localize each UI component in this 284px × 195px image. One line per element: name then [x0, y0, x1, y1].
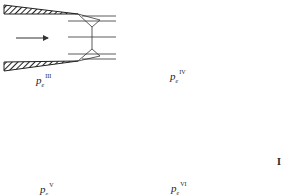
label-pe-v: peV [40, 183, 54, 195]
label-pe-iv: peIV [170, 70, 186, 84]
label-sub: e [46, 191, 49, 195]
label-sup: III [45, 73, 51, 79]
nozzle-flow-diagram [0, 0, 284, 195]
label-base: p [40, 183, 46, 195]
nozzle-wall-top [4, 5, 78, 14]
nozzle-wall-bottom [4, 61, 78, 71]
label-sup: VI [180, 181, 186, 187]
label-pe-iii: peIII [36, 74, 51, 88]
label-sub: e [176, 78, 179, 84]
label-pe-vi: peVI [171, 182, 187, 195]
label-base: p [36, 74, 42, 86]
panel-iii [4, 5, 116, 71]
side-mark: I [277, 156, 281, 167]
label-sub: e [42, 82, 45, 88]
label-base: p [171, 182, 177, 194]
label-sup: V [49, 182, 53, 188]
shock-structure [68, 14, 116, 61]
label-sub: e [177, 190, 180, 195]
label-base: p [170, 70, 176, 82]
label-sup: IV [179, 69, 185, 75]
